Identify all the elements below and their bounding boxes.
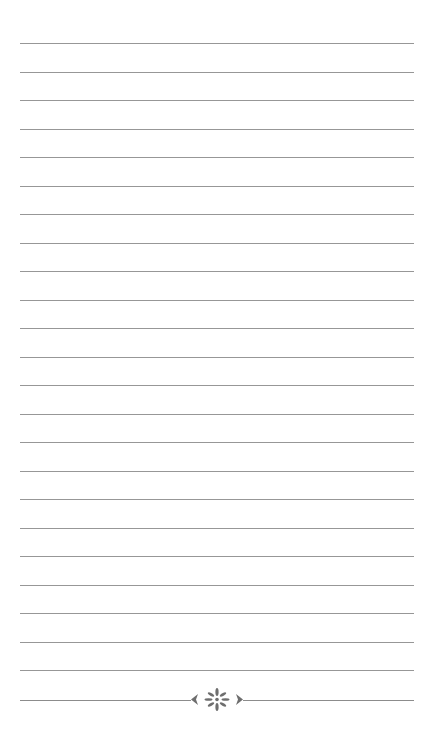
divider-line-right: [243, 700, 414, 701]
ruled-line: [20, 100, 414, 101]
ruled-line: [20, 129, 414, 130]
floral-divider-icon: [189, 687, 245, 713]
ruled-line: [20, 585, 414, 586]
divider-line-left: [20, 700, 191, 701]
ruled-line: [20, 300, 414, 301]
ruled-line: [20, 72, 414, 73]
ruled-line: [20, 442, 414, 443]
ruled-line: [20, 43, 414, 44]
ruled-line: [20, 328, 414, 329]
notepaper-page: [0, 0, 421, 741]
ruled-line: [20, 157, 414, 158]
ruled-line: [20, 186, 414, 187]
ruled-line: [20, 214, 414, 215]
ruled-line: [20, 471, 414, 472]
ruled-line: [20, 357, 414, 358]
ruled-line: [20, 670, 414, 671]
ruled-line: [20, 556, 414, 557]
ruled-line: [20, 528, 414, 529]
ruled-line: [20, 243, 414, 244]
ruled-line: [20, 642, 414, 643]
ruled-line: [20, 271, 414, 272]
ruled-line: [20, 499, 414, 500]
ruled-line: [20, 385, 414, 386]
ruled-line: [20, 613, 414, 614]
ruled-line: [20, 414, 414, 415]
